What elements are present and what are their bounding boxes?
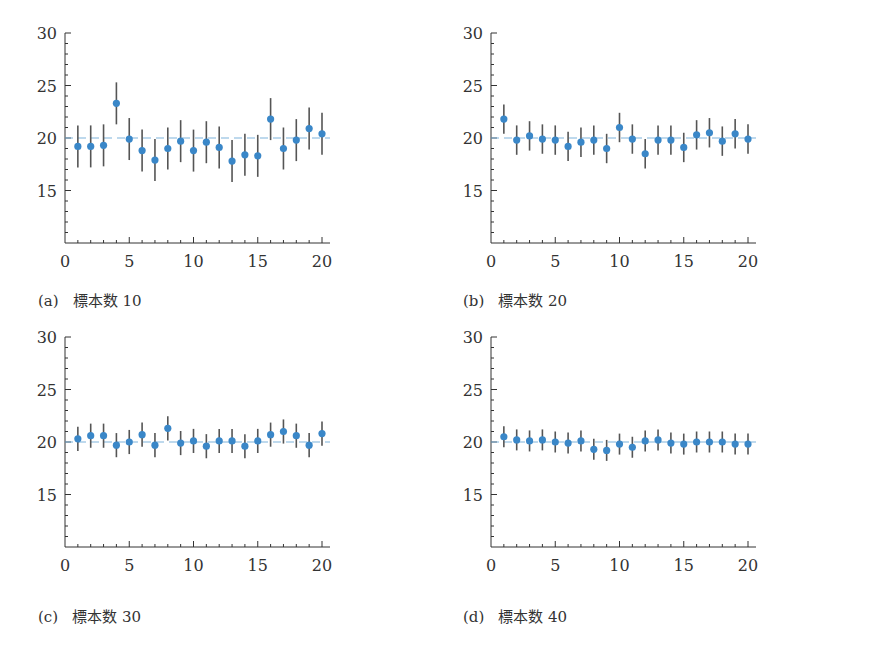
data-point [565, 143, 572, 150]
y-tick-label: 25 [37, 77, 57, 96]
data-point [616, 441, 623, 448]
data-point [151, 442, 158, 449]
x-tick-label: 0 [60, 252, 70, 271]
data-point [629, 135, 636, 142]
data-point [680, 441, 687, 448]
data-point [732, 441, 739, 448]
x-tick-label: 10 [183, 252, 203, 271]
data-point [539, 135, 546, 142]
data-point [719, 138, 726, 145]
y-tick-label: 30 [463, 328, 483, 347]
data-point [590, 446, 597, 453]
x-tick-label: 10 [183, 556, 203, 575]
y-tick-label: 25 [37, 381, 57, 400]
data-point [293, 137, 300, 144]
y-tick-label: 30 [37, 24, 57, 43]
caption-tag: (a) [38, 292, 59, 310]
data-point [526, 437, 533, 444]
data-point [100, 142, 107, 149]
data-point [216, 437, 223, 444]
x-tick-label: 5 [550, 556, 560, 575]
data-point [603, 145, 610, 152]
data-point [552, 438, 559, 445]
caption-text: 標本数 20 [498, 292, 567, 310]
x-tick-label: 20 [312, 252, 332, 271]
y-tick-label: 20 [37, 433, 57, 452]
data-point [254, 437, 261, 444]
x-tick-label: 10 [609, 252, 629, 271]
errorbar-chart-c: 1520253005101520 [0, 320, 420, 640]
data-point [267, 116, 274, 123]
data-point [654, 436, 661, 443]
data-point [100, 432, 107, 439]
data-point [642, 150, 649, 157]
data-point [732, 130, 739, 137]
data-point [126, 135, 133, 142]
data-point [693, 438, 700, 445]
data-point [552, 137, 559, 144]
caption-tag: (c) [38, 608, 58, 626]
caption-tag: (b) [463, 292, 484, 310]
data-point [744, 441, 751, 448]
data-point [306, 125, 313, 132]
data-point [74, 143, 81, 150]
data-point [190, 437, 197, 444]
data-point [74, 435, 81, 442]
data-point [603, 447, 610, 454]
x-tick-label: 15 [674, 252, 694, 271]
caption-a: (a)標本数 10 [38, 289, 142, 310]
data-point [280, 145, 287, 152]
caption-c: (c)標本数 30 [38, 605, 141, 626]
data-point [744, 135, 751, 142]
data-point [616, 124, 623, 131]
errorbar-chart-d: 1520253005101520 [426, 320, 846, 640]
data-point [680, 144, 687, 151]
data-point [539, 436, 546, 443]
data-point [87, 432, 94, 439]
caption-text: 標本数 10 [73, 292, 142, 310]
data-point [254, 152, 261, 159]
data-point [577, 139, 584, 146]
y-tick-label: 25 [463, 77, 483, 96]
data-point [228, 437, 235, 444]
data-point [203, 139, 210, 146]
data-point [500, 433, 507, 440]
data-point [500, 116, 507, 123]
data-point [164, 145, 171, 152]
data-point [280, 428, 287, 435]
data-point [203, 443, 210, 450]
y-tick-label: 15 [463, 182, 483, 201]
x-tick-label: 5 [124, 252, 134, 271]
x-tick-label: 0 [60, 556, 70, 575]
y-tick-label: 20 [37, 129, 57, 148]
data-point [318, 430, 325, 437]
x-tick-label: 0 [486, 556, 496, 575]
y-tick-label: 20 [463, 129, 483, 148]
data-point [706, 129, 713, 136]
errorbar-chart-b: 1520253005101520 [426, 0, 846, 320]
x-tick-label: 0 [486, 252, 496, 271]
data-point [216, 144, 223, 151]
data-point [241, 151, 248, 158]
data-point [139, 147, 146, 154]
data-point [706, 438, 713, 445]
data-point [293, 432, 300, 439]
y-tick-label: 15 [463, 486, 483, 505]
data-point [526, 132, 533, 139]
x-tick-label: 5 [124, 556, 134, 575]
x-tick-label: 20 [738, 252, 758, 271]
data-point [113, 100, 120, 107]
data-point [151, 156, 158, 163]
x-tick-label: 10 [609, 556, 629, 575]
data-point [318, 130, 325, 137]
data-point [139, 431, 146, 438]
data-point [667, 439, 674, 446]
y-tick-label: 30 [463, 24, 483, 43]
x-tick-label: 15 [248, 556, 268, 575]
x-tick-label: 20 [738, 556, 758, 575]
data-point [177, 439, 184, 446]
data-point [190, 147, 197, 154]
caption-tag: (d) [463, 608, 484, 626]
data-point [87, 143, 94, 150]
caption-text: 標本数 30 [72, 608, 141, 626]
